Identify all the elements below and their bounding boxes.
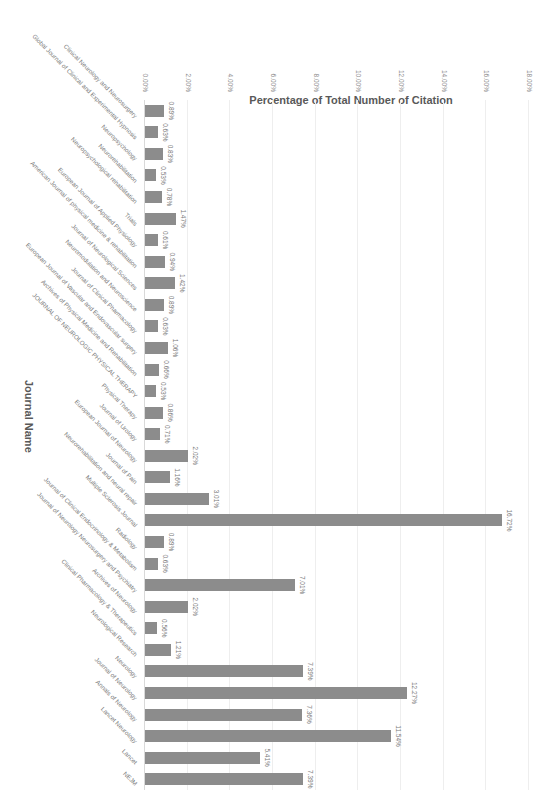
y-tick-label: 0.00% <box>142 32 149 92</box>
x-tick-label: Global Journal of Clinical and Experimen… <box>31 32 139 140</box>
bar <box>145 234 158 246</box>
bar <box>145 191 162 203</box>
gridline <box>443 100 444 790</box>
bar <box>145 428 160 440</box>
x-tick-label: Lancet <box>121 748 139 766</box>
bar <box>145 407 163 419</box>
y-tick-label: 16.00% <box>483 32 490 92</box>
bar-value-label: 0.56% <box>161 608 168 648</box>
bar <box>145 213 176 225</box>
y-tick-label: 2.00% <box>185 32 192 92</box>
bar <box>145 385 156 397</box>
bar-value-label: 2.02% <box>192 587 199 627</box>
bar-value-label: 1.42% <box>179 263 186 303</box>
y-tick-label: 12.00% <box>398 32 405 92</box>
bar <box>145 579 295 591</box>
bar-value-label: 1.21% <box>175 630 182 670</box>
bar-value-label: 16.72% <box>506 500 513 540</box>
bar <box>145 687 407 699</box>
x-tick-label: Trials <box>124 211 139 226</box>
bar-value-label: 1.47% <box>180 199 187 239</box>
bar <box>145 256 165 268</box>
bar-value-label: 0.61% <box>162 220 169 260</box>
bar <box>145 169 156 181</box>
bar-value-label: 0.63% <box>162 306 169 346</box>
y-tick-label: 14.00% <box>441 32 448 92</box>
x-tick-label: European Journal of Applied Physiology <box>57 166 139 248</box>
bar-value-label: 7.39% <box>307 759 314 799</box>
x-tick-label: Journal of Urology <box>99 402 139 442</box>
x-tick-label: Journal of Neurology Neurosurgery and Ps… <box>36 490 139 593</box>
bar-value-label: 11.54% <box>395 716 402 756</box>
bar <box>145 644 171 656</box>
bar <box>145 471 170 483</box>
bar-value-label: 0.94% <box>169 242 176 282</box>
bar-value-label: 1.16% <box>174 457 181 497</box>
bar <box>145 450 188 462</box>
x-tick-label: Lancet Neurology <box>100 705 139 744</box>
bar <box>145 493 209 505</box>
gridline <box>485 100 486 790</box>
plot-area: 0.00%2.00%4.00%6.00%8.00%10.00%12.00%14.… <box>145 100 529 790</box>
bar <box>145 773 303 785</box>
bar <box>145 752 260 764</box>
y-tick-label: 18.00% <box>526 32 533 92</box>
y-tick-label: 10.00% <box>355 32 362 92</box>
bar-value-label: 7.01% <box>299 565 306 605</box>
bar-value-label: 0.53% <box>160 371 167 411</box>
bar <box>145 622 157 634</box>
bar-value-label: 0.63% <box>162 544 169 584</box>
bar <box>145 709 302 721</box>
bar <box>145 665 303 677</box>
bar <box>145 320 158 332</box>
bar-value-label: 3.01% <box>213 479 220 519</box>
bar <box>145 126 158 138</box>
bar-value-label: 0.83% <box>167 134 174 174</box>
bar-value-label: 12.27% <box>411 673 418 713</box>
x-tick-label: NEJM <box>122 770 139 787</box>
bar-value-label: 7.39% <box>307 651 314 691</box>
bar-value-label: 5.41% <box>264 738 271 778</box>
bar <box>145 514 502 526</box>
x-axis-title: Journal Name <box>23 380 35 453</box>
bar-value-label: 0.71% <box>164 414 171 454</box>
bar-chart: Percentage of Total Number of Citation 0… <box>0 0 557 809</box>
bar-value-label: 7.36% <box>306 695 313 735</box>
bar-value-label: 0.78% <box>166 177 173 217</box>
bar <box>145 299 164 311</box>
gridline <box>528 100 529 790</box>
y-tick-label: 4.00% <box>227 32 234 92</box>
x-tick-label: Neurorehabilitation <box>97 142 139 184</box>
y-tick-label: 8.00% <box>313 32 320 92</box>
bar <box>145 364 159 376</box>
bar <box>145 558 158 570</box>
bar <box>145 105 164 117</box>
y-tick-label: 6.00% <box>270 32 277 92</box>
bar-value-label: 1.06% <box>172 328 179 368</box>
bar-value-label: 2.02% <box>192 436 199 476</box>
bar <box>145 536 164 548</box>
